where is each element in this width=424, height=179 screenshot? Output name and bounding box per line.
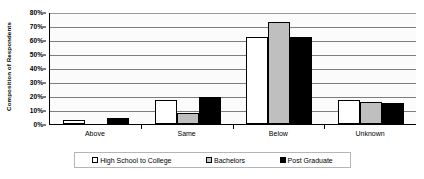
y-axis-tick-mark xyxy=(43,111,46,112)
bar xyxy=(177,113,199,124)
y-axis-tick-mark xyxy=(43,83,46,84)
plot-area xyxy=(49,13,416,125)
y-axis-tick-label: 60% xyxy=(30,38,43,45)
x-axis-category-label: Below xyxy=(269,130,288,137)
y-axis-tick-mark xyxy=(43,13,46,14)
bar xyxy=(107,118,129,124)
legend-swatch-icon xyxy=(92,157,98,163)
y-axis-tick-mark xyxy=(43,125,46,126)
y-axis-title: Composition of Respondents xyxy=(0,0,16,132)
x-axis-category-label: Same xyxy=(177,130,195,137)
legend-swatch-icon xyxy=(206,157,212,163)
y-axis-tick-label: 50% xyxy=(30,52,43,59)
y-axis-tick-mark xyxy=(43,27,46,28)
x-axis-tick-mark xyxy=(141,125,142,129)
y-axis-tick-label: 30% xyxy=(30,80,43,87)
legend-swatch-icon xyxy=(280,157,286,163)
bar-group xyxy=(50,13,142,124)
bar-group xyxy=(325,13,417,124)
x-axis-category-label: Above xyxy=(85,130,105,137)
y-axis-tick-label: 70% xyxy=(30,24,43,31)
bar xyxy=(290,37,312,124)
chart-legend: High School to CollegeBachelorsPost Grad… xyxy=(74,152,351,168)
bar xyxy=(155,100,177,124)
y-axis-tick-mark xyxy=(43,41,46,42)
legend-entry: Post Graduate xyxy=(280,157,333,164)
bar xyxy=(268,22,290,124)
bar-group xyxy=(142,13,234,124)
bar xyxy=(338,100,360,124)
bar xyxy=(199,97,221,124)
y-axis-tick-label: 80% xyxy=(30,10,43,17)
y-axis-title-label: Composition of Respondents xyxy=(5,22,12,111)
bar xyxy=(382,103,404,124)
bar-group xyxy=(234,13,326,124)
legend-entry: Bachelors xyxy=(206,157,245,164)
y-axis-tick-label: 0% xyxy=(33,122,43,129)
bar xyxy=(63,120,85,124)
legend-entry: High School to College xyxy=(92,157,171,164)
y-axis-tick-label: 20% xyxy=(30,94,43,101)
y-axis-tick-mark xyxy=(43,97,46,98)
x-axis-tick-mark xyxy=(233,125,234,129)
legend-label: Bachelors xyxy=(214,157,245,164)
bar xyxy=(360,102,382,124)
bar-chart-figure: Composition of Respondents 0%10%20%30%40… xyxy=(0,0,424,179)
y-axis-tick-labels: 0%10%20%30%40%50%60%70%80% xyxy=(17,8,46,132)
bars-layer xyxy=(50,13,416,124)
x-axis-category-label: Unknown xyxy=(356,130,385,137)
y-axis-tick-mark xyxy=(43,55,46,56)
y-axis-tick-label: 40% xyxy=(30,66,43,73)
bar xyxy=(246,37,268,124)
y-axis-tick-label: 10% xyxy=(30,108,43,115)
legend-label: High School to College xyxy=(100,157,171,164)
legend-label: Post Graduate xyxy=(288,157,333,164)
y-axis-tick-mark xyxy=(43,69,46,70)
x-axis-tick-mark xyxy=(324,125,325,129)
